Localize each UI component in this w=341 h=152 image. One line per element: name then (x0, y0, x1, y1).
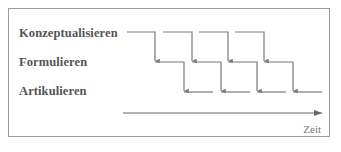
stage-cascades (127, 32, 322, 92)
timing-diagram (0, 0, 341, 152)
time-axis-label: Zeit (303, 123, 321, 135)
